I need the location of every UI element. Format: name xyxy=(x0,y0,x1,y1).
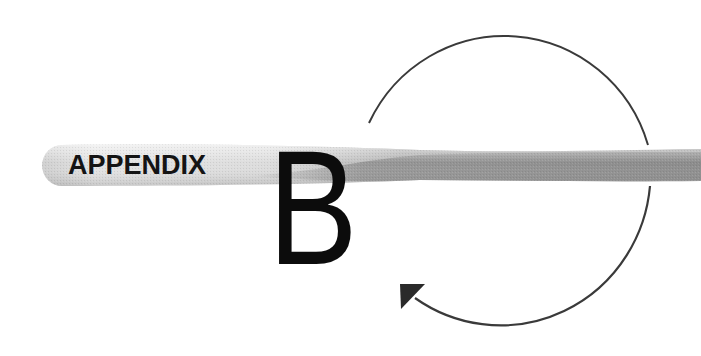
appendix-title-page: APPENDIX B xyxy=(0,0,701,356)
appendix-letter: B xyxy=(268,126,358,290)
arrowhead-icon xyxy=(400,284,425,309)
appendix-label: APPENDIX xyxy=(68,150,206,180)
